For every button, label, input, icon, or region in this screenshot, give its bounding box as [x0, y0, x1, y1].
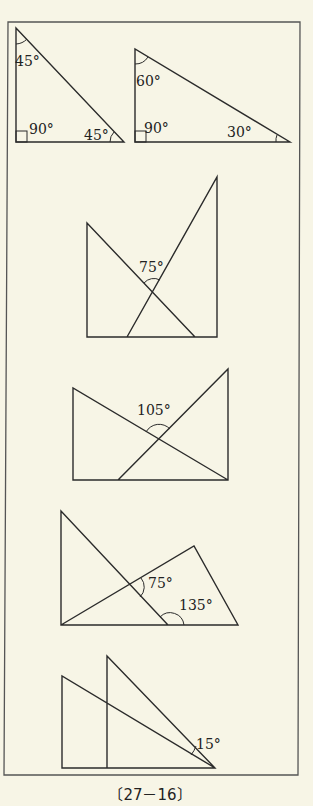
figure-75-degree-cross: 75°: [87, 177, 217, 337]
figure-caption: 〔27－16〕: [0, 783, 300, 804]
angle-label-vertex: 15°: [196, 736, 221, 752]
angle-label-top: 60°: [136, 73, 161, 89]
figure-15-degree-shared-vertex: 15°: [62, 656, 221, 768]
figure-45-45-90-triangle: 45° 90° 45°: [15, 28, 124, 143]
figure-75-135-triangles: 75° 135°: [61, 511, 238, 625]
angle-arc: [135, 57, 148, 64]
angle-label-bottom-right: 45°: [84, 127, 109, 143]
right-angle-marker: [16, 131, 27, 142]
set-squares-diagram: 45° 90° 45° 60° 90° 30° 75° 105° 75° 135…: [0, 0, 313, 806]
angle-arc: [276, 135, 277, 142]
angle-arc: [160, 613, 184, 625]
figure-105-degree-cross: 105°: [73, 369, 228, 480]
angle-label-base: 135°: [179, 597, 213, 613]
angle-label-intersection: 105°: [137, 402, 171, 418]
angle-arc: [110, 132, 114, 142]
angle-label-intersection: 75°: [148, 575, 173, 591]
angle-arc: [16, 39, 27, 44]
angle-arc: [140, 578, 144, 597]
angle-label-intersection: 75°: [139, 259, 164, 275]
angle-label-right: 90°: [29, 121, 54, 137]
figure-30-60-90-triangle: 60° 90° 30°: [135, 49, 290, 142]
angle-label-top: 45°: [15, 53, 40, 69]
angle-label-right: 90°: [144, 120, 169, 136]
angle-label-bottom-right: 30°: [227, 124, 252, 140]
